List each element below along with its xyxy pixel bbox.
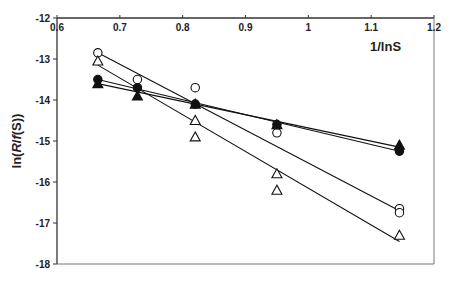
open-triangles-point <box>272 185 282 194</box>
plot-frame <box>57 18 434 264</box>
fit-lines <box>98 53 400 242</box>
open-circles-point <box>273 129 281 137</box>
scatter-chart: 0.60.70.80.911.11.2 -12-13-14-15-16-17-1… <box>0 0 452 281</box>
y-tick-label: -15 <box>36 136 51 147</box>
open-circles-point <box>395 209 403 217</box>
filled-triangles-fit-line <box>98 84 400 148</box>
data-points <box>93 49 405 240</box>
open-triangles-point <box>190 132 200 141</box>
x-tick-label: 0.6 <box>50 22 64 33</box>
y-axis-title: ln(R/f(S)) <box>9 114 24 169</box>
y-tick-label: -14 <box>36 95 51 106</box>
y-tick-label: -17 <box>36 218 51 229</box>
x-tick-label: 1.2 <box>427 22 441 33</box>
y-tick-label: -13 <box>36 54 51 65</box>
open-triangles-point <box>93 56 103 65</box>
y-tick-label: -18 <box>36 259 51 270</box>
open-triangles-point <box>272 169 282 178</box>
x-axis-title: 1/lnS <box>370 39 401 54</box>
open-circles-fit-line <box>98 53 400 211</box>
x-tick-label: 0.8 <box>176 22 190 33</box>
filled-triangles-point <box>394 140 404 149</box>
y-tick-label: -12 <box>36 13 51 24</box>
y-axis-ticks: -12-13-14-15-16-17-18 <box>36 13 57 270</box>
x-tick-label: 0.9 <box>239 22 253 33</box>
x-tick-label: 1 <box>306 22 312 33</box>
open-circles-point <box>133 75 141 83</box>
open-circles-point <box>191 84 199 92</box>
x-tick-label: 0.7 <box>113 22 127 33</box>
x-tick-label: 1.1 <box>364 22 378 33</box>
y-tick-label: -16 <box>36 177 51 188</box>
open-triangles-fit-line <box>98 65 400 241</box>
open-triangles-point <box>394 230 404 239</box>
